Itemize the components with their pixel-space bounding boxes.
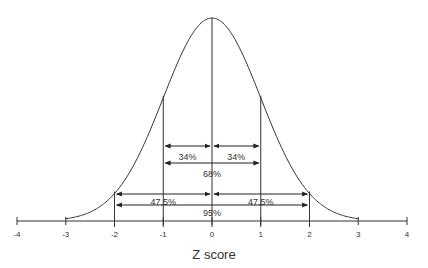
range-label: 34% [227,152,245,162]
x-axis: -4-3-2-101234 [13,217,409,239]
range-label: 95% [203,208,221,218]
sd-vertical-lines [115,18,310,227]
x-tick-label: -4 [13,230,21,239]
x-tick-label: -1 [160,230,168,239]
x-tick-label: 4 [405,230,410,239]
x-tick-label: 1 [259,230,264,239]
x-tick-label: -2 [111,230,119,239]
x-axis-label: Z score [192,247,235,262]
x-tick-label: 2 [307,230,312,239]
x-tick-label: 3 [356,230,361,239]
x-tick-label: 0 [210,230,215,239]
chart-svg: -4-3-2-101234 34%34%68%47.5%47.5%95% Z s… [0,0,428,268]
range-label: 68% [203,169,221,179]
normal-distribution-chart: -4-3-2-101234 34%34%68%47.5%47.5%95% Z s… [0,0,428,268]
range-label: 34% [179,152,197,162]
x-tick-label: -3 [62,230,70,239]
